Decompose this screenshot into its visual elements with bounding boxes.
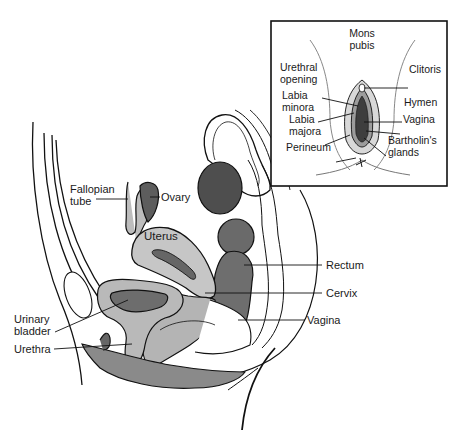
label-rectum: Rectum (326, 259, 364, 271)
label-urethral-opening: Urethral opening (280, 61, 317, 85)
label-bartholins-glands: Bartholin's glands (388, 134, 437, 158)
label-labia-majora: Labia majora (289, 113, 321, 137)
label-urethra: Urethra (14, 343, 51, 355)
pelvic-anatomy-illustration (0, 0, 467, 443)
label-urinary-bladder: Urinary bladder (14, 313, 51, 337)
label-ovary: Ovary (161, 191, 190, 203)
label-uterus: Uterus (144, 230, 178, 242)
pubic-bone (59, 268, 98, 321)
label-vagina-inset: Vagina (403, 113, 435, 125)
label-mons-pubis: Mons pubis (340, 27, 384, 51)
label-hymen: Hymen (404, 96, 437, 108)
label-vagina: Vagina (307, 314, 340, 326)
label-cervix: Cervix (326, 287, 357, 299)
label-labia-minora: Labia minora (282, 89, 314, 113)
label-clitoris: Clitoris (409, 63, 441, 75)
label-fallopian-tube: Fallopian tube (70, 183, 115, 207)
label-perineum: Perineum (286, 141, 331, 153)
